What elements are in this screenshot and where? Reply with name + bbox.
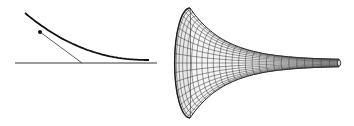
tangent-line — [40, 32, 82, 63]
pseudosphere-tip — [337, 60, 341, 66]
tractrix-figure — [15, 13, 157, 63]
diagram-canvas — [0, 0, 354, 126]
tangent-point — [38, 30, 42, 34]
tractrix-curve — [25, 13, 149, 60]
pseudosphere-figure — [175, 8, 341, 118]
